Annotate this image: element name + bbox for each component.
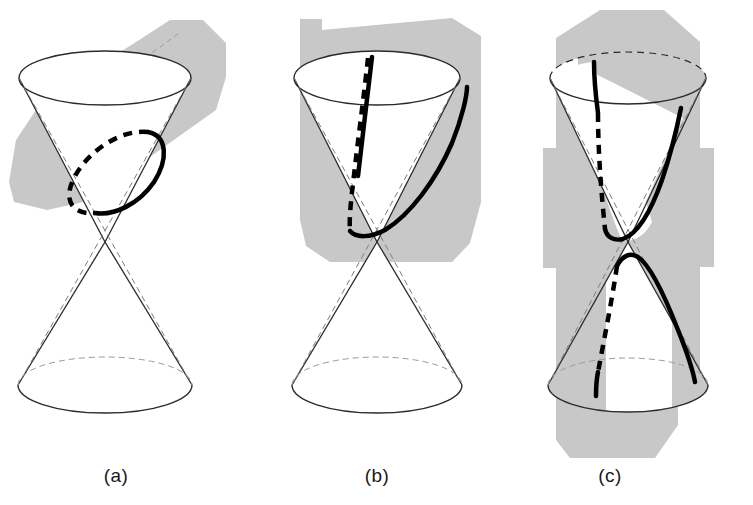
conic-sections-figure: (a) xyxy=(0,0,753,505)
panel-a: (a) xyxy=(9,20,226,486)
lower-nappe-a xyxy=(18,242,192,413)
figure-canvas: (a) xyxy=(0,0,753,505)
panel-b: (b) xyxy=(292,18,481,486)
panel-a-caption: (a) xyxy=(104,465,129,486)
panel-c-caption: (c) xyxy=(598,465,622,486)
panel-c: (c) xyxy=(543,0,732,486)
panel-b-caption: (b) xyxy=(365,465,390,486)
lower-nappe-b xyxy=(292,242,462,413)
